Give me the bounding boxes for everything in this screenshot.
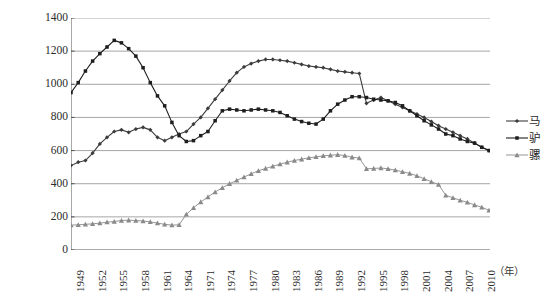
x-tick-label: 1958 bbox=[140, 252, 151, 292]
legend-label: 驴 bbox=[529, 132, 540, 144]
data-point-square bbox=[307, 121, 311, 125]
chart-legend: 马驴骡 bbox=[506, 113, 556, 167]
data-point-diamond bbox=[170, 135, 174, 139]
data-point-square bbox=[415, 114, 419, 118]
x-tick-label: 1961 bbox=[162, 252, 173, 292]
x-tick-label: 1986 bbox=[313, 252, 324, 292]
x-tick-label: 1992 bbox=[356, 252, 367, 292]
data-point-square bbox=[134, 54, 138, 58]
x-tick-label: 1952 bbox=[97, 252, 108, 292]
data-point-diamond bbox=[321, 66, 325, 70]
data-point-diamond bbox=[163, 139, 167, 143]
y-tick-label: 400 bbox=[34, 178, 68, 189]
plot-svg bbox=[71, 18, 490, 250]
x-tick-label: 1980 bbox=[270, 252, 281, 292]
legend-marker-triangle-icon bbox=[506, 149, 528, 161]
y-tick-label: 800 bbox=[34, 111, 68, 122]
series-驴 bbox=[71, 39, 490, 153]
data-point-diamond bbox=[451, 130, 455, 134]
x-tick-label: 2007 bbox=[464, 252, 475, 292]
data-point-square bbox=[336, 102, 340, 106]
data-point-square bbox=[120, 41, 124, 45]
data-point-square bbox=[149, 81, 153, 85]
x-tick-label: 1955 bbox=[118, 252, 129, 292]
data-point-triangle bbox=[486, 208, 490, 213]
data-point-diamond bbox=[515, 119, 519, 123]
x-tick-label: 1983 bbox=[291, 252, 302, 292]
data-point-square bbox=[365, 96, 369, 100]
plot-area bbox=[71, 18, 490, 250]
data-point-diamond bbox=[444, 127, 448, 131]
x-tick-label: 1977 bbox=[248, 252, 259, 292]
x-tick-label: 1964 bbox=[183, 252, 194, 292]
data-point-diamond bbox=[307, 64, 311, 68]
data-point-triangle bbox=[443, 193, 448, 198]
data-point-square bbox=[206, 130, 210, 134]
gridlines bbox=[71, 18, 490, 217]
data-point-square bbox=[105, 45, 109, 49]
data-point-diamond bbox=[271, 57, 275, 61]
data-point-diamond bbox=[328, 67, 332, 71]
x-tick-label: 1995 bbox=[378, 252, 389, 292]
data-point-diamond bbox=[314, 65, 318, 69]
x-tick-label: 1989 bbox=[334, 252, 345, 292]
data-point-square bbox=[343, 98, 347, 102]
legend-item-驴[interactable]: 驴 bbox=[506, 130, 540, 146]
data-point-diamond bbox=[350, 71, 354, 75]
data-point-square bbox=[408, 109, 412, 113]
x-tick-label: 1974 bbox=[226, 252, 237, 292]
chart-figure: 单位：万匹（头） 1400120010008006004002000 19491… bbox=[0, 0, 558, 299]
data-point-triangle bbox=[422, 176, 427, 181]
data-point-square bbox=[487, 149, 490, 153]
data-point-square bbox=[350, 95, 354, 99]
data-point-square bbox=[293, 117, 297, 121]
data-point-square bbox=[394, 101, 398, 105]
data-point-triangle bbox=[436, 182, 441, 187]
data-point-diamond bbox=[285, 59, 289, 63]
legend-item-骡[interactable]: 骡 bbox=[506, 147, 540, 163]
data-point-diamond bbox=[127, 130, 131, 134]
y-axis-ticks bbox=[71, 18, 75, 250]
data-point-square bbox=[473, 141, 477, 145]
y-tick-label: 0 bbox=[34, 244, 68, 255]
data-point-diamond bbox=[71, 163, 73, 167]
x-tick-label: 1998 bbox=[399, 252, 410, 292]
data-point-square bbox=[379, 98, 383, 102]
x-tick-label: 2004 bbox=[443, 252, 454, 292]
data-point-triangle bbox=[241, 174, 246, 179]
data-point-diamond bbox=[134, 127, 138, 131]
data-point-square bbox=[285, 114, 289, 118]
y-axis-tick-labels: 1400120010008006004002000 bbox=[28, 0, 68, 299]
data-point-square bbox=[386, 99, 390, 103]
data-point-diamond bbox=[278, 58, 282, 62]
data-point-diamond bbox=[76, 160, 80, 164]
data-point-square bbox=[321, 117, 325, 121]
data-point-square bbox=[264, 108, 268, 112]
y-tick-label: 1400 bbox=[34, 12, 68, 23]
data-point-square bbox=[358, 95, 362, 99]
data-point-square bbox=[271, 109, 275, 113]
data-point-square bbox=[249, 108, 253, 112]
data-point-diamond bbox=[357, 71, 361, 75]
x-axis-tick-labels: 1949195219551958196119641971197419771980… bbox=[71, 252, 490, 298]
data-point-triangle bbox=[234, 178, 239, 183]
data-series-layer bbox=[71, 39, 490, 228]
data-point-square bbox=[163, 104, 167, 108]
data-point-triangle bbox=[198, 199, 203, 204]
data-point-triangle bbox=[205, 194, 210, 199]
data-point-diamond bbox=[141, 125, 145, 129]
data-point-triangle bbox=[249, 171, 254, 176]
data-point-square bbox=[401, 104, 405, 108]
data-point-square bbox=[372, 97, 376, 101]
data-point-square bbox=[278, 111, 282, 115]
data-point-square bbox=[466, 140, 470, 144]
data-point-square bbox=[444, 132, 448, 136]
x-tick-label: 1949 bbox=[75, 252, 86, 292]
data-point-diamond bbox=[343, 70, 347, 74]
data-point-diamond bbox=[119, 128, 123, 132]
data-point-square bbox=[112, 39, 116, 43]
x-axis-unit-label: （年） bbox=[494, 263, 524, 278]
legend-label: 骡 bbox=[529, 149, 540, 161]
legend-label: 马 bbox=[529, 115, 540, 127]
legend-item-马[interactable]: 马 bbox=[506, 113, 540, 129]
